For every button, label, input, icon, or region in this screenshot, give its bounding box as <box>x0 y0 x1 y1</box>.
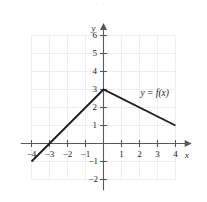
x-axis-label: x <box>185 151 189 160</box>
y-tick-label-3: 3 <box>93 85 98 94</box>
graph-figure: · · · −4−3−2−11234−2−1123456 x y y = f(x… <box>0 0 207 202</box>
x-tick-label-neg2: −2 <box>63 150 73 159</box>
y-tick-label-1: 1 <box>93 121 98 130</box>
y-tick-label-5: 5 <box>93 49 98 58</box>
y-tick-label-2: 2 <box>93 103 98 112</box>
x-tick-label-4: 4 <box>173 150 178 159</box>
function-annotation-label: y = f(x) <box>140 89 169 99</box>
x-tick-label-neg4: −4 <box>27 150 37 159</box>
y-tick-label-neg2: −2 <box>89 175 99 184</box>
axes-lines <box>21 23 192 190</box>
x-tick-label-neg3: −3 <box>45 150 55 159</box>
y-axis-label: y <box>92 24 96 33</box>
y-tick-label-neg1: −1 <box>89 157 99 166</box>
x-tick-label-1: 1 <box>119 150 124 159</box>
x-tick-label-3: 3 <box>155 150 160 159</box>
x-tick-label-2: 2 <box>137 150 142 159</box>
coordinate-plane-svg <box>0 0 207 202</box>
y-tick-label-4: 4 <box>93 67 98 76</box>
